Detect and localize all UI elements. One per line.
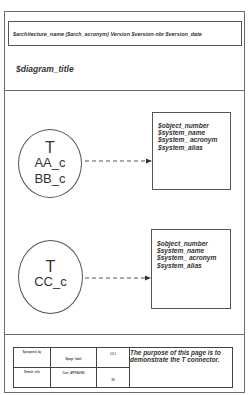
connector-arrows	[0, 0, 249, 395]
dashed-arrow-2	[85, 276, 151, 281]
prepared-by-cell: $prepared_by	[14, 348, 51, 368]
page-description: The purpose of this page is to demonstra…	[130, 350, 232, 363]
dashed-arrow-1	[85, 159, 152, 164]
core-code-cell: Core_APP/A0/E0	[51, 368, 97, 388]
footer-table: $prepared_by $reach_info $page_label Cor…	[13, 347, 233, 388]
page-label-cell: $page_label	[51, 348, 97, 368]
reach-info-cell: $reach_info	[14, 368, 51, 388]
page-number-cell: 00	[97, 368, 130, 388]
version-cell: 1.0.1	[97, 348, 130, 368]
